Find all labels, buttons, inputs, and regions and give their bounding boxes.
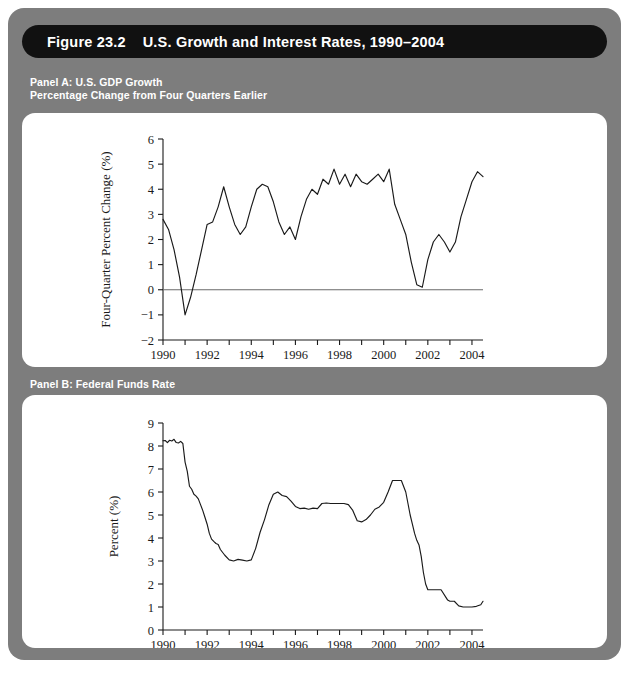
- x-tick-label: 1994: [239, 348, 265, 362]
- y-tick-label: 0: [148, 624, 154, 638]
- data-series-line: [163, 169, 483, 315]
- panel-a-chart: −2−1012345619901992199419961998200020022…: [22, 113, 607, 367]
- x-tick-label: 2002: [415, 348, 440, 362]
- panel-a-caption: Panel A: U.S. GDP Growth Percentage Chan…: [30, 76, 267, 102]
- y-tick-label: 1: [148, 258, 154, 272]
- x-tick-label: 1992: [195, 348, 220, 362]
- y-tick-label: 5: [148, 158, 154, 172]
- x-tick-label: 2000: [371, 638, 396, 648]
- x-tick-label: 1992: [195, 638, 220, 648]
- y-tick-label: 8: [148, 440, 154, 454]
- y-tick-label: 0: [148, 283, 154, 297]
- x-tick-label: 1990: [151, 348, 176, 362]
- x-tick-label: 2000: [371, 348, 396, 362]
- x-tick-label: 1998: [327, 638, 352, 648]
- panel-a-plot-card: −2−1012345619901992199419961998200020022…: [22, 113, 607, 367]
- y-tick-label: 1: [148, 601, 154, 615]
- y-tick-label: 6: [148, 133, 154, 147]
- panel-b-plot-card: 0123456789199019921994199619982000200220…: [22, 395, 607, 648]
- x-tick-label: 1990: [151, 638, 176, 648]
- y-axis-title: Percent (%): [106, 496, 121, 558]
- y-tick-label: 4: [148, 532, 155, 546]
- x-tick-label: 1998: [327, 348, 352, 362]
- y-tick-label: 9: [148, 417, 154, 431]
- x-tick-label: 2004: [459, 348, 485, 362]
- y-tick-label: 2: [148, 233, 154, 247]
- y-tick-label: 4: [148, 183, 155, 197]
- y-tick-label: 2: [148, 578, 154, 592]
- data-series-line: [163, 439, 483, 607]
- x-tick-label: 1994: [239, 638, 265, 648]
- y-tick-label: 6: [148, 486, 154, 500]
- x-tick-label: 1996: [283, 348, 308, 362]
- panel-b-caption: Panel B: Federal Funds Rate: [30, 378, 175, 391]
- y-tick-label: −2: [141, 334, 154, 348]
- panel-b-chart: 0123456789199019921994199619982000200220…: [22, 395, 607, 648]
- y-tick-label: 3: [148, 555, 154, 569]
- x-tick-label: 2002: [415, 638, 440, 648]
- figure-container: Figure 23.2 U.S. Growth and Interest Rat…: [8, 8, 621, 660]
- x-tick-label: 1996: [283, 638, 308, 648]
- y-tick-label: 7: [148, 463, 154, 477]
- y-tick-label: −1: [141, 308, 154, 322]
- y-tick-label: 3: [148, 208, 154, 222]
- y-axis-title: Four-Quarter Percent Change (%): [98, 151, 113, 327]
- y-tick-label: 5: [148, 509, 154, 523]
- x-tick-label: 2004: [459, 638, 485, 648]
- figure-title-bar: Figure 23.2 U.S. Growth and Interest Rat…: [22, 25, 607, 58]
- figure-title: Figure 23.2 U.S. Growth and Interest Rat…: [22, 34, 444, 50]
